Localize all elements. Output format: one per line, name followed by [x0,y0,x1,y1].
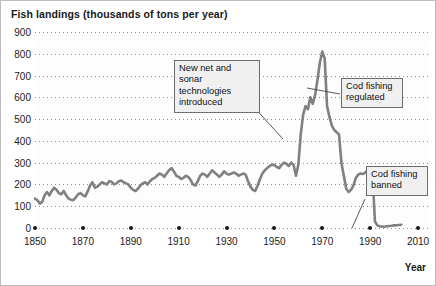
x-axis-tick-label: 1850 [24,236,46,247]
y-axis-tick-label: 300 [1,157,31,168]
y-axis-tick-label: 0 [1,223,31,234]
x-axis-tick-dot [416,226,420,230]
gridline [35,32,430,33]
fish-landings-chart-figure: Fish landings (thousands of tons per yea… [0,0,436,286]
x-axis-tick-dot [129,226,133,230]
x-axis-tick-dot [225,226,229,230]
x-axis-tick-label: 1950 [263,236,285,247]
y-axis-tick-label: 600 [1,92,31,103]
x-axis-tick-dot [368,226,372,230]
x-axis-tick-dot [81,226,85,230]
y-axis-tick-label: 400 [1,135,31,146]
x-axis-ticks: 185018701890191019301950197019902010 [35,228,430,229]
x-axis-tick-label: 2010 [407,236,429,247]
y-axis-tick-label: 500 [1,114,31,125]
x-axis-tick-label: 1910 [168,236,190,247]
x-axis-tick-label: 1930 [215,236,237,247]
x-axis-tick-dot [320,226,324,230]
y-axis-tick-label: 200 [1,179,31,190]
y-axis-tick-label: 900 [1,27,31,38]
gridline [35,54,430,55]
y-axis-tick-label: 700 [1,70,31,81]
annotation-cod-banned: Cod fishing banned [366,166,428,196]
annotation-cod-regulated: Cod fishing regulated [341,78,403,108]
gridline [35,206,430,207]
x-axis-tick-label: 1970 [311,236,333,247]
y-axis-tick-labels: 9008007006005004003002001000 [0,32,31,228]
x-axis-tick-dot [177,226,181,230]
x-axis-tick-label: 1870 [72,236,94,247]
x-axis-tick-label: 1890 [120,236,142,247]
y-axis-tick-label: 800 [1,48,31,59]
annotation-new-net-sonar: New net and sonar technologies introduce… [174,60,260,113]
chart-title: Fish landings (thousands of tons per yea… [11,8,228,20]
gridline [35,163,430,164]
x-axis-tick-dot [33,226,37,230]
x-axis-tick-dot [272,226,276,230]
x-axis-title: Year [405,262,426,273]
gridline [35,141,430,142]
y-axis-tick-label: 100 [1,201,31,212]
gridline [35,119,430,120]
x-axis-tick-label: 1990 [359,236,381,247]
